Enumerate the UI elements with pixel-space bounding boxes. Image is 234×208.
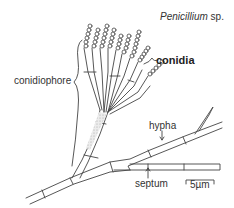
conidiophore-brace bbox=[72, 40, 82, 166]
label-septum: septum bbox=[135, 179, 168, 189]
label-conidia: conidia bbox=[156, 55, 195, 66]
label-hypha: hypha bbox=[149, 121, 176, 131]
diagram-title: Penicillium sp. bbox=[160, 12, 224, 22]
penicillium-diagram bbox=[0, 0, 234, 208]
label-scale-bar: 5µm bbox=[190, 180, 210, 190]
septum-arrow bbox=[146, 168, 150, 178]
label-conidiophore: conidiophore bbox=[14, 76, 71, 86]
species-suffix: sp. bbox=[208, 11, 224, 22]
conidia-chains bbox=[84, 24, 164, 76]
genus-name: Penicillium bbox=[160, 11, 208, 22]
hypha-arrow bbox=[160, 131, 164, 140]
